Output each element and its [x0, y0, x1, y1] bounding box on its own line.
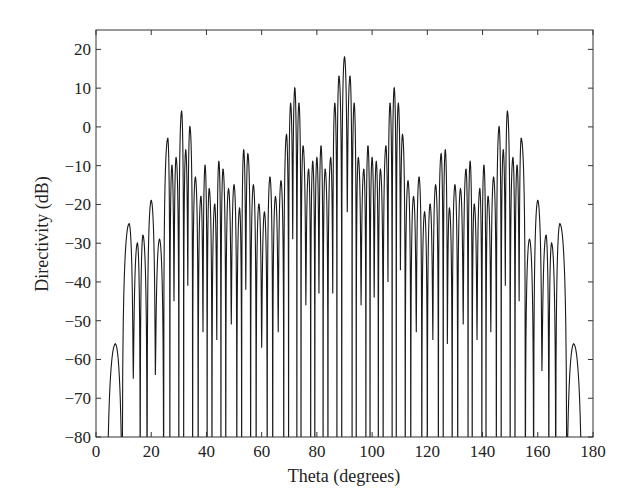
lobe-peak-point — [385, 146, 386, 147]
lobe-peak-point — [222, 169, 223, 170]
y-tick-label: −70 — [64, 389, 91, 408]
lobe-peak-point — [545, 235, 546, 236]
lobe-peak-point — [424, 212, 425, 213]
lobe-peak-point — [441, 153, 442, 154]
y-tick-label: −30 — [64, 234, 91, 253]
lobe-peak-point — [521, 138, 522, 139]
lobe-peak-point — [316, 157, 317, 158]
lobe-peak-point — [363, 169, 364, 170]
lobe-peak-point — [195, 177, 196, 178]
lobe-peak-point — [512, 157, 513, 158]
lobe-peak-point — [413, 196, 414, 197]
x-tick-label: 140 — [470, 442, 496, 461]
lobe-peak-point — [465, 169, 466, 170]
x-tick-label: 20 — [143, 442, 160, 461]
pattern-curve-group — [107, 57, 582, 496]
lobe-peak-point — [516, 165, 517, 166]
lobe-peak-point — [394, 88, 395, 89]
directivity-chart: 020406080100120140160180 20100−10−20−30−… — [0, 0, 632, 503]
lobe-peak-point — [115, 343, 116, 344]
x-tick-label: 60 — [253, 442, 270, 461]
lobe-peak-point — [325, 169, 326, 170]
lobe-peak-point — [435, 184, 436, 185]
lobe-peak-point — [380, 169, 381, 170]
x-tick-label: 80 — [308, 442, 325, 461]
y-axis-label: Directivity (dB) — [32, 176, 53, 291]
lobe-peak-point — [445, 150, 446, 151]
lobe-peak-point — [367, 146, 368, 147]
lobe-peak-point — [129, 223, 130, 224]
lobe-peak-point — [454, 184, 455, 185]
x-tick-label: 100 — [359, 442, 385, 461]
x-axis-label: Theta (degrees) — [288, 466, 400, 487]
lobe-peak-point — [239, 208, 240, 209]
lobe-peak-point — [308, 169, 309, 170]
x-tick-label: 120 — [415, 442, 441, 461]
y-tick-label: 20 — [74, 40, 91, 59]
lobe-peak-point — [460, 188, 461, 189]
lobe-peak-point — [372, 157, 373, 158]
lobe-peak-point — [228, 188, 229, 189]
lobe-peak-point — [159, 239, 160, 240]
directivity-line — [107, 57, 582, 495]
x-tick-label: 40 — [198, 442, 215, 461]
y-tick-label: −10 — [64, 157, 91, 176]
lobe-peak-point — [573, 343, 574, 344]
x-tick-label: 0 — [92, 442, 101, 461]
lobe-peak-point — [253, 184, 254, 185]
lobe-peak-point — [142, 235, 143, 236]
lobe-peak-point — [167, 138, 168, 139]
lobe-peak-point — [258, 204, 259, 205]
lobe-peak-point — [312, 161, 313, 162]
y-tick-label: −50 — [64, 312, 91, 331]
lobe-peak-point — [233, 184, 234, 185]
lobe-peak-point — [537, 200, 538, 201]
y-tick-label: −60 — [64, 350, 91, 369]
lobe-peak-point — [330, 157, 331, 158]
lobe-peak-point — [185, 150, 186, 151]
lobe-peak-point — [551, 243, 552, 244]
lobe-peak-point — [479, 188, 480, 189]
lobe-peak-point — [449, 208, 450, 209]
lobe-peak-point — [559, 223, 560, 224]
lobe-peak-point — [487, 196, 488, 197]
x-tick-label: 160 — [525, 442, 551, 461]
lobe-peak-point — [376, 161, 377, 162]
lobe-peak-point — [320, 146, 321, 147]
lobe-peak-point — [200, 196, 201, 197]
lobe-peak-point — [294, 88, 295, 89]
lobe-peak-point — [204, 165, 205, 166]
lobe-peak-point — [171, 165, 172, 166]
lobe-peak-point — [389, 103, 390, 104]
y-tick-label: 0 — [83, 118, 92, 137]
lobe-peak-point — [529, 239, 530, 240]
lobe-peak-point — [349, 76, 350, 77]
y-tick-label: −80 — [64, 428, 91, 447]
lobe-peak-point — [298, 103, 299, 104]
lobe-peak-point — [407, 181, 408, 182]
lobe-peak-point — [214, 204, 215, 205]
lobe-peak-point — [429, 204, 430, 205]
lobe-peak-point — [358, 157, 359, 158]
lobe-peak-point — [302, 146, 303, 147]
lobe-peak-point — [290, 103, 291, 104]
lobe-peak-point — [243, 150, 244, 151]
lobe-peak-point — [474, 204, 475, 205]
lobe-peak-point — [507, 111, 508, 112]
lobe-peak-point — [137, 243, 138, 244]
lobe-peak-point — [209, 188, 210, 189]
y-tick-label: 10 — [74, 79, 91, 98]
lobe-peak-point — [175, 157, 176, 158]
lobe-peak-point — [493, 177, 494, 178]
lobe-peak-point — [402, 134, 403, 135]
y-tick-label: −20 — [64, 195, 91, 214]
lobe-peak-point — [151, 200, 152, 201]
lobe-peak-point — [344, 57, 345, 58]
lobe-peak-point — [470, 161, 471, 162]
lobe-peak-point — [181, 111, 182, 112]
lobe-peak-point — [247, 153, 248, 154]
lobe-peak-point — [483, 165, 484, 166]
lobe-peak-point — [218, 161, 219, 162]
lobe-peak-point — [286, 134, 287, 135]
lobe-peak-point — [334, 103, 335, 104]
